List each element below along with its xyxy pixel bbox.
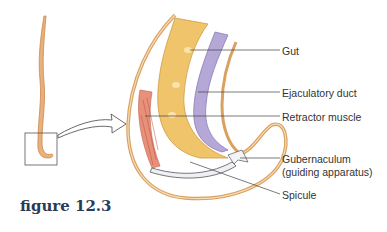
figure-caption: figure 12.3 [20, 197, 112, 215]
zoom-arrow-icon [58, 114, 126, 138]
whole-worm-icon [38, 16, 53, 158]
label-gubernaculum: Gubernaculum [282, 153, 351, 165]
label-retractor-muscle: Retractor muscle [282, 111, 361, 123]
label-gut: Gut [282, 45, 299, 57]
label-spicule: Spicule [282, 189, 316, 201]
label-gubernaculum-sub: (guiding apparatus) [282, 166, 372, 178]
label-ejaculatory-duct: Ejaculatory duct [282, 87, 357, 99]
